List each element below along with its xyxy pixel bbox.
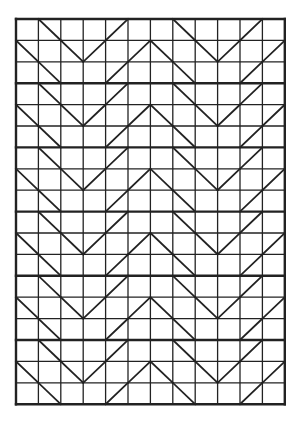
diagonal-down-line — [173, 126, 195, 147]
diagonal-down-line — [61, 297, 83, 318]
diagonal-down-line — [173, 147, 195, 168]
diagonal-up-line — [83, 40, 105, 61]
diagonal-up-line — [262, 233, 284, 254]
diagonal-up-line — [218, 297, 240, 318]
diagonal-up-line — [106, 340, 128, 361]
diagonal-up-line — [262, 40, 284, 61]
diagonal-up-line — [106, 19, 128, 40]
diagonal-down-line — [195, 105, 217, 126]
diagonal-down-line — [150, 169, 172, 190]
diagonal-up-line — [128, 169, 150, 190]
diagonal-down-line — [16, 105, 38, 126]
diagonal-down-line — [195, 233, 217, 254]
diagonal-up-line — [128, 105, 150, 126]
diagonal-up-line — [240, 126, 262, 147]
diagonal-up-line — [106, 319, 128, 340]
diagonal-down-line — [38, 83, 60, 104]
diagonal-up-line — [83, 361, 105, 382]
diagonal-down-line — [61, 169, 83, 190]
diagonal-up-line — [240, 212, 262, 233]
diagonal-up-line — [128, 40, 150, 61]
diagonal-down-line — [173, 190, 195, 211]
diagonal-down-line — [195, 297, 217, 318]
diagonal-up-line — [240, 62, 262, 83]
diagonal-up-line — [218, 40, 240, 61]
diagonal-up-line — [240, 276, 262, 297]
chevron-grid-diagram — [0, 0, 305, 425]
diagonal-down-line — [61, 233, 83, 254]
diagonal-up-line — [128, 361, 150, 382]
diagonal-down-line — [150, 105, 172, 126]
diagonal-down-line — [16, 40, 38, 61]
diagonal-up-line — [262, 105, 284, 126]
diagonal-down-line — [173, 340, 195, 361]
diagonal-up-line — [106, 190, 128, 211]
diagonal-up-line — [218, 105, 240, 126]
diagonal-up-line — [83, 105, 105, 126]
diagonal-up-line — [128, 233, 150, 254]
diagonal-down-line — [38, 340, 60, 361]
diagonal-up-line — [262, 297, 284, 318]
diagonal-down-line — [16, 361, 38, 382]
diagonal-up-line — [262, 169, 284, 190]
diagonal-down-line — [173, 276, 195, 297]
diagonal-down-line — [150, 233, 172, 254]
diagonal-down-line — [16, 233, 38, 254]
diagonal-down-line — [38, 319, 60, 340]
diagonal-up-line — [240, 340, 262, 361]
diagonal-up-line — [218, 169, 240, 190]
diagonal-down-line — [61, 105, 83, 126]
diagonal-down-line — [195, 361, 217, 382]
diagonal-up-line — [240, 319, 262, 340]
diagonal-down-line — [38, 147, 60, 168]
diagonal-up-line — [218, 233, 240, 254]
diagonal-down-line — [38, 383, 60, 404]
diagonal-up-line — [240, 190, 262, 211]
diagonal-down-line — [61, 40, 83, 61]
diagonal-down-line — [38, 190, 60, 211]
diagonal-up-line — [240, 254, 262, 275]
diagonal-down-line — [38, 212, 60, 233]
diagonal-up-line — [106, 212, 128, 233]
diagonal-up-line — [106, 254, 128, 275]
diagonal-up-line — [106, 126, 128, 147]
diagonal-down-line — [173, 83, 195, 104]
diagonal-down-line — [150, 361, 172, 382]
diagonal-up-line — [83, 297, 105, 318]
diagonal-up-line — [106, 383, 128, 404]
diagonal-up-line — [128, 297, 150, 318]
diagonal-up-line — [240, 19, 262, 40]
diagonal-down-line — [150, 297, 172, 318]
diagonal-down-line — [173, 319, 195, 340]
diagonal-down-line — [173, 62, 195, 83]
diagonal-up-line — [83, 233, 105, 254]
diagonal-down-line — [38, 276, 60, 297]
diagonal-up-line — [240, 383, 262, 404]
diagonal-up-line — [106, 147, 128, 168]
diagonal-down-line — [38, 19, 60, 40]
diagonal-down-line — [195, 169, 217, 190]
diagonal-up-line — [240, 83, 262, 104]
diagonal-down-line — [38, 62, 60, 83]
diagonal-down-line — [173, 254, 195, 275]
diagonal-down-line — [16, 297, 38, 318]
diagonal-up-line — [218, 361, 240, 382]
diagonal-up-line — [106, 62, 128, 83]
diagonal-up-line — [262, 361, 284, 382]
diagonal-up-line — [83, 169, 105, 190]
diagonal-up-line — [106, 276, 128, 297]
diagonal-up-line — [106, 83, 128, 104]
diagonal-down-line — [38, 254, 60, 275]
diagonal-down-line — [16, 169, 38, 190]
diagonal-down-line — [195, 40, 217, 61]
diagonal-down-line — [173, 383, 195, 404]
diagonal-down-line — [173, 19, 195, 40]
diagonal-down-line — [61, 361, 83, 382]
diagonal-down-line — [150, 40, 172, 61]
diagonal-up-line — [240, 147, 262, 168]
diagonal-down-line — [38, 126, 60, 147]
diagonal-down-line — [173, 212, 195, 233]
grid-lines — [16, 19, 285, 404]
